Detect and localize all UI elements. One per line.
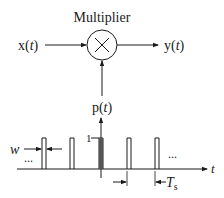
multiplier-node [87,30,117,60]
pulse-sampling-diagram: Multiplier x(t) y(t) p(t) 1 t w ... ... [0,0,224,198]
pulse-train [42,138,159,169]
period-label: Ts [166,175,178,192]
width-label: w [10,142,20,157]
ellipsis-left: ... [24,151,33,165]
ellipsis-right: ... [168,147,177,161]
pulse-train-label: p(t) [92,100,113,116]
pulse [70,138,74,169]
time-axis-label: t [211,161,215,176]
output-label: y(t) [164,38,185,54]
input-label: x(t) [18,38,39,54]
pulse [127,138,131,169]
pulse [155,138,159,169]
pulse [42,138,46,169]
multiplier-title: Multiplier [74,10,131,25]
amplitude-label: 1 [86,132,92,144]
